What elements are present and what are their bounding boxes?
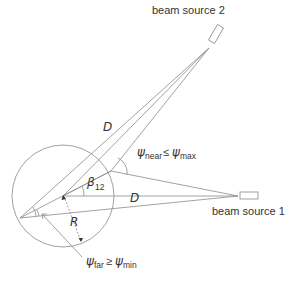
- beam-source-2-box: [208, 24, 223, 43]
- beam-source-1-box: [240, 192, 258, 199]
- beam-source-2-label: beam source 2: [152, 4, 225, 16]
- ray-source2-center: [63, 48, 209, 196]
- radius-label: R: [70, 215, 78, 229]
- psi-max-subscript: max: [180, 151, 197, 161]
- ray-source1-far: [20, 196, 238, 218]
- psi-min-subscript: min: [123, 260, 137, 270]
- psi-far-arc-inner: [37, 210, 39, 216]
- distance-upper-label: D: [103, 120, 112, 134]
- radius-arrow-head-bottom: [79, 238, 84, 242]
- beam-source-1-label: beam source 1: [212, 205, 285, 217]
- beam-geometry-diagram: beam source 2 beam source 1 D D β 12 R ψ…: [0, 0, 298, 282]
- psi-near-relation: ≤: [163, 146, 169, 158]
- beta-subscript: 12: [95, 182, 105, 192]
- psi-far-relation: ≥: [106, 255, 112, 267]
- ray-source2-far: [20, 48, 209, 218]
- psi-far-subscript: far: [94, 260, 104, 270]
- beta-arc: [82, 186, 84, 196]
- psi-near-subscript: near: [145, 151, 162, 161]
- beta-symbol: β: [86, 175, 95, 189]
- distance-lower-label: D: [130, 191, 139, 205]
